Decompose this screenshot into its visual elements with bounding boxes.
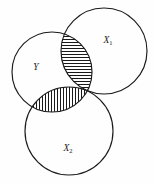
venn-diagram-figure: X1 Y X2 xyxy=(0,0,154,184)
venn-diagram-canvas: X1 Y X2 xyxy=(0,0,154,184)
set-label-y: Y xyxy=(33,62,40,72)
set-label-x1: X1 xyxy=(102,35,112,46)
set-label-x2: X2 xyxy=(62,143,72,154)
